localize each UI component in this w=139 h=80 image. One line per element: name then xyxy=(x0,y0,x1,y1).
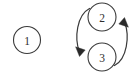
node-2-label: 2 xyxy=(99,12,105,24)
diagram-canvas: 1 2 3 xyxy=(0,0,139,80)
edge-3-to-2-arrowhead-icon xyxy=(119,18,129,28)
node-3-label: 3 xyxy=(99,52,105,64)
edge-3-to-2 xyxy=(115,18,129,66)
edge-2-to-3-arrowhead-icon xyxy=(76,47,86,57)
state-diagram: 1 2 3 xyxy=(0,0,139,80)
node-1[interactable]: 1 xyxy=(14,27,41,54)
node-3[interactable]: 3 xyxy=(88,43,116,71)
edge-2-to-3 xyxy=(76,9,90,57)
node-2[interactable]: 2 xyxy=(88,3,116,31)
node-1-label: 1 xyxy=(24,35,30,47)
